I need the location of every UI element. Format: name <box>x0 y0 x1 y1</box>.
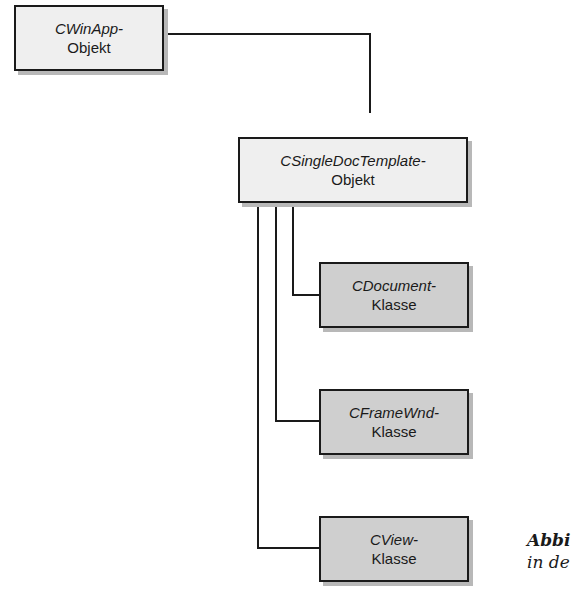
node-cdocument-klasse: CDocument- Klasse <box>319 262 469 328</box>
node-title: CView- <box>321 530 467 549</box>
node-cview-klasse: CView- Klasse <box>319 516 469 582</box>
connector-cframewnd-vertical <box>275 203 277 422</box>
node-title: CFrameWnd- <box>321 403 467 422</box>
node-title: CDocument- <box>321 276 467 295</box>
node-title: CSingleDocTemplate- <box>240 151 466 170</box>
node-subtitle: Objekt <box>16 38 162 57</box>
connector-cwinapp-horizontal <box>162 33 371 35</box>
node-csingledoctemplate-objekt: CSingleDocTemplate- Objekt <box>238 137 468 203</box>
node-cframewnd-klasse: CFrameWnd- Klasse <box>319 389 469 455</box>
connector-cframewnd-horizontal <box>275 420 319 422</box>
caption-line-2: in de <box>527 551 570 573</box>
node-subtitle: Klasse <box>321 549 467 568</box>
connector-cview-vertical <box>257 203 259 549</box>
connector-cwinapp-vertical <box>369 33 371 113</box>
connector-cdocument-horizontal <box>292 294 319 296</box>
node-title: CWinApp- <box>16 19 162 38</box>
figure-caption: Abbi in de <box>527 529 570 573</box>
caption-line-1: Abbi <box>527 529 570 551</box>
node-subtitle: Klasse <box>321 295 467 314</box>
node-subtitle: Objekt <box>240 170 466 189</box>
connector-cdocument-vertical <box>292 203 294 296</box>
node-cwinapp-objekt: CWinApp- Objekt <box>14 5 164 71</box>
node-subtitle: Klasse <box>321 422 467 441</box>
connector-cview-horizontal <box>257 547 319 549</box>
